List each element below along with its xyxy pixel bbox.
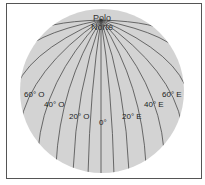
label-20-west: 20° O <box>69 113 90 121</box>
label-60-west: 60° O <box>24 91 45 99</box>
label-40-west: 40° O <box>44 101 65 109</box>
pole-label: Polo Norte <box>86 14 118 32</box>
label-20-east: 20° E <box>122 113 142 121</box>
label-0: 0° <box>99 119 107 127</box>
globe-sphere <box>20 9 184 173</box>
label-40-east: 40° E <box>144 101 164 109</box>
label-60-east: 60° E <box>162 91 182 99</box>
